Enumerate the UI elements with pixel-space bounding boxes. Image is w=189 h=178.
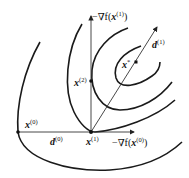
label-grad-x1: −∇f(x(1)) bbox=[92, 10, 127, 23]
steepest-descent-diagram: −∇f(x(1)) d(1) x* x(2) x(0) d(0) x(1) −∇… bbox=[0, 0, 189, 178]
point-x0 bbox=[16, 130, 20, 134]
label-d0: d(0) bbox=[50, 135, 63, 147]
point-x1 bbox=[89, 130, 93, 134]
label-x1: x(1) bbox=[85, 135, 99, 147]
label-d1: d(1) bbox=[152, 38, 165, 50]
label-x2: x(2) bbox=[73, 76, 87, 88]
label-grad-x0: −∇f(x(0)) bbox=[112, 136, 147, 149]
label-xstar: x* bbox=[121, 58, 130, 70]
label-x0: x(0) bbox=[24, 118, 38, 130]
point-xstar bbox=[135, 61, 138, 64]
point-x2 bbox=[89, 79, 93, 83]
contour-outer bbox=[18, 42, 182, 170]
